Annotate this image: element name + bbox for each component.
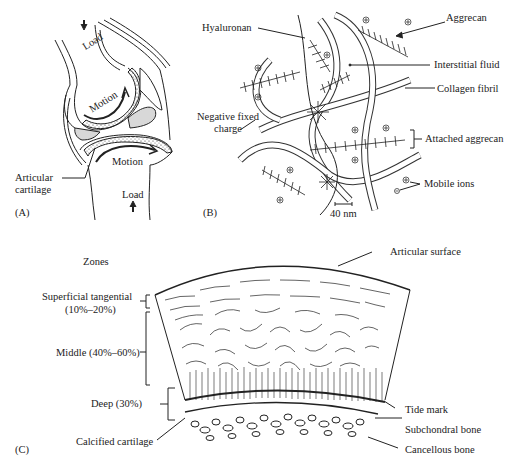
superficial-zone-label-line2: (10%–20%) — [65, 304, 116, 316]
scale-bar — [335, 202, 352, 206]
subchondral-bone-label: Subchondral bone — [405, 424, 481, 436]
scale-bar-label: 40 nm — [330, 208, 357, 220]
motion-bottom-label: Motion — [112, 156, 143, 168]
panel-b-label: (B) — [203, 207, 217, 219]
zones-title: Zones — [83, 256, 109, 268]
middle-zone-label: Middle (40%–60%) — [56, 347, 140, 359]
mobile-ions-label: Mobile ions — [424, 178, 474, 190]
panel-a-label: (A) — [15, 207, 30, 219]
articular-cartilage-label-line1: Articular — [15, 172, 53, 184]
extracellular-matrix-illustration — [240, 15, 445, 215]
tide-mark-line — [185, 390, 385, 402]
collagen-fibril-label: Collagen fibril — [437, 83, 499, 95]
load-bottom-label: Load — [122, 189, 144, 201]
cartilage-zones-illustration — [140, 252, 410, 448]
hyaluronan-label: Hyaluronan — [202, 22, 252, 34]
superficial-zone-label-line1: Superficial tangential — [42, 291, 132, 303]
aggrecan-label: Aggrecan — [446, 12, 487, 24]
tide-mark-label: Tide mark — [405, 404, 448, 416]
articular-cartilage-label-line2: cartilage — [15, 184, 51, 196]
negative-fixed-charge-label-line2: charge — [196, 123, 260, 135]
cancellous-bone — [191, 414, 364, 441]
knee-joint-illustration — [55, 18, 172, 220]
articular-surface-label: Articular surface — [390, 246, 461, 258]
panel-c-label: (C) — [15, 444, 29, 456]
cancellous-bone-label: Cancellous bone — [405, 444, 475, 456]
attached-aggrecan-label: Attached aggrecan — [425, 133, 503, 145]
interstitial-fluid-label: Interstitial fluid — [434, 59, 500, 71]
negative-fixed-charge-label-line1: Negative fixed — [196, 111, 260, 123]
deep-zone-label: Deep (30%) — [91, 398, 142, 410]
calcified-cartilage-label: Calcified cartilage — [76, 436, 153, 448]
